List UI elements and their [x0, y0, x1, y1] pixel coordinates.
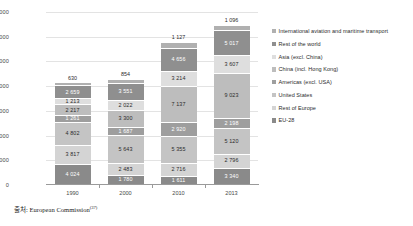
segment-value-label: 5 643: [119, 147, 133, 152]
segment-value-label: 7 137: [172, 102, 186, 107]
segment-value-label: 2 483: [119, 167, 133, 172]
chart-legend: International aviation and maritime tran…: [272, 28, 413, 130]
bar-stack[interactable]: 1 1274 6563 2147 1372 9205 3552 7161 611…: [161, 42, 197, 184]
segment-value-label: 2 022: [119, 103, 133, 108]
legend-item[interactable]: Rest of Europe: [272, 105, 413, 112]
bar-segment[interactable]: 2 659: [55, 85, 91, 98]
source-caption: 출처: European Commission(37): [14, 204, 97, 214]
segment-value-label: 2 198: [225, 121, 239, 126]
legend-swatch-icon: [272, 55, 276, 59]
legend-swatch-icon: [272, 93, 276, 97]
x-axis-tick-label: 2013: [202, 190, 262, 196]
gridline: [46, 12, 258, 13]
bar-segment[interactable]: 7 137: [161, 86, 197, 121]
bar-segment[interactable]: 5 355: [161, 136, 197, 162]
y-axis-tick-label: 5 000: [0, 157, 9, 163]
x-axis-tick-label: 2010: [149, 190, 209, 196]
bar-segment[interactable]: 3 551: [108, 83, 144, 101]
bar-total-top-label: 630: [68, 75, 77, 81]
bar-segment[interactable]: 4 024: [55, 164, 91, 184]
legend-item-label: Rest of Europe: [279, 105, 316, 112]
legend-item[interactable]: International aviation and maritime tran…: [272, 28, 413, 35]
bar-segment[interactable]: 1 780: [108, 175, 144, 184]
legend-item[interactable]: Americas (excl. USA): [272, 79, 413, 86]
y-axis-tick-label: 25 000: [0, 58, 9, 64]
bar-segment[interactable]: 1 611: [161, 176, 197, 184]
bar-segment[interactable]: 2 217: [55, 104, 91, 115]
bar-segment[interactable]: 3 607: [214, 55, 250, 73]
segment-value-label: 1 780: [119, 177, 133, 182]
bar-segment[interactable]: 2 716: [161, 163, 197, 176]
y-axis-tick-label: 30 000: [0, 34, 9, 40]
segment-value-label: 5 355: [172, 147, 186, 152]
bar-segment[interactable]: 1 687: [108, 127, 144, 135]
segment-value-label: 2 659: [66, 90, 80, 95]
legend-item[interactable]: Rest of the world: [272, 41, 413, 48]
x-axis-tick: [205, 185, 206, 188]
segment-value-label: 3 300: [119, 116, 133, 121]
legend-item[interactable]: United States: [272, 92, 413, 99]
bar-segment[interactable]: 2 796: [214, 154, 250, 168]
bar-segment[interactable]: 2 022: [108, 100, 144, 110]
bar-stack[interactable]: 8543 5512 0223 3001 6875 6432 4831 78085…: [108, 79, 144, 184]
legend-item-label: EU-28: [279, 117, 295, 124]
bar-segment[interactable]: 2 198: [214, 118, 250, 129]
segment-value-label: 2 716: [172, 167, 186, 172]
segment-value-label: 4 802: [66, 131, 80, 136]
segment-value-label: 1 611: [172, 178, 186, 183]
plot-area: 05 00010 00015 00020 00025 00030 00035 0…: [46, 12, 258, 185]
bar-segment[interactable]: 2 483: [108, 163, 144, 175]
bar-segment[interactable]: 3 214: [161, 71, 197, 87]
bar-total-top-label: 854: [121, 71, 130, 77]
bar-segment[interactable]: 9 023: [214, 73, 250, 118]
segment-value-label: 2 796: [225, 158, 239, 163]
bar-segment[interactable]: 3 300: [108, 110, 144, 126]
y-axis-tick-label: 15 000: [0, 108, 9, 114]
legend-swatch-icon: [272, 118, 276, 122]
segment-value-label: 3 551: [119, 89, 133, 94]
bar-total-top-label: 1 127: [172, 34, 186, 40]
legend-swatch-icon: [272, 67, 276, 71]
segment-value-label: 1 687: [119, 129, 133, 134]
bar-stack[interactable]: 1 0965 0173 6079 0232 1985 1202 7963 340…: [214, 25, 250, 184]
legend-item-label: Asia (excl. China): [279, 54, 323, 61]
bar-segment[interactable]: 5 643: [108, 135, 144, 163]
chart-page: 05 00010 00015 00020 00025 00030 00035 0…: [0, 0, 413, 226]
bar-segment[interactable]: 2 920: [161, 122, 197, 136]
legend-item[interactable]: EU-28: [272, 117, 413, 124]
bar-segment[interactable]: 3 817: [55, 145, 91, 164]
bar-segment[interactable]: 5 120: [214, 128, 250, 153]
bar-stack[interactable]: 6302 6591 2132 2171 2614 8023 8174 02463…: [55, 82, 91, 184]
bar-total-top-label: 1 096: [225, 17, 239, 23]
legend-swatch-icon: [272, 29, 276, 33]
x-axis-tick: [99, 185, 100, 188]
legend-item-label: Rest of the world: [279, 41, 321, 48]
segment-value-label: 4 656: [172, 57, 186, 62]
legend-swatch-icon: [272, 106, 276, 110]
y-axis-tick-label: 35 000: [0, 9, 9, 15]
segment-value-label: 5 120: [225, 139, 239, 144]
segment-value-label: 3 214: [172, 76, 186, 81]
bar-segment[interactable]: 4 656: [161, 48, 197, 71]
segment-value-label: 3 607: [225, 62, 239, 67]
segment-value-label: 2 920: [172, 127, 186, 132]
legend-item-label: International aviation and maritime tran…: [279, 28, 389, 35]
legend-item[interactable]: China (incl. Hong Kong): [272, 66, 413, 73]
y-axis-tick-label: 20 000: [0, 83, 9, 89]
x-axis-tick: [152, 185, 153, 188]
bar-segment[interactable]: 4 802: [55, 122, 91, 146]
y-axis-tick-label: 10 000: [0, 133, 9, 139]
x-axis-tick-label: 2000: [96, 190, 156, 196]
segment-value-label: 2 217: [66, 108, 80, 113]
segment-value-label: 4 024: [66, 172, 80, 177]
legend-item-label: China (incl. Hong Kong): [279, 66, 339, 73]
segment-value-label: 3 817: [66, 152, 80, 157]
segment-value-label: 5 017: [225, 41, 239, 46]
x-axis-tick-label: 1990: [43, 190, 103, 196]
y-axis-tick-label: 0: [0, 182, 9, 188]
bar-segment[interactable]: 5 017: [214, 30, 250, 55]
legend-item[interactable]: Asia (excl. China): [272, 54, 413, 61]
bar-segment[interactable]: 3 340: [214, 168, 250, 185]
segment-value-label: 3 340: [225, 174, 239, 179]
caption-text: 출처: European Commission: [14, 206, 90, 213]
